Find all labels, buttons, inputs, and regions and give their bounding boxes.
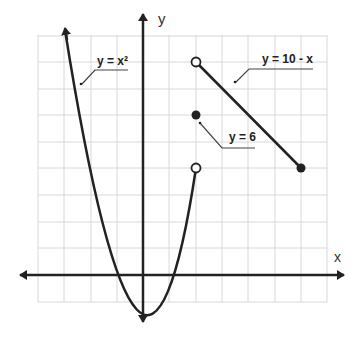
open-point-2-8 bbox=[192, 58, 201, 67]
point-label-text: y = 6 bbox=[229, 130, 256, 144]
x-axis-label: x bbox=[334, 249, 341, 265]
y-axis-label: y bbox=[158, 10, 166, 27]
label-parabola: y = x² bbox=[80, 54, 128, 85]
graph: y x y = x² y = 10 - x y = 6 bbox=[0, 0, 361, 340]
parabola-curve bbox=[65, 30, 196, 315]
parabola-label-text: y = x² bbox=[97, 54, 128, 68]
open-point-2-4 bbox=[192, 164, 201, 173]
filled-point-2-6 bbox=[192, 111, 201, 120]
line-label-text: y = 10 - x bbox=[262, 52, 313, 66]
grid bbox=[38, 35, 327, 302]
filled-point-6-4 bbox=[297, 164, 306, 173]
